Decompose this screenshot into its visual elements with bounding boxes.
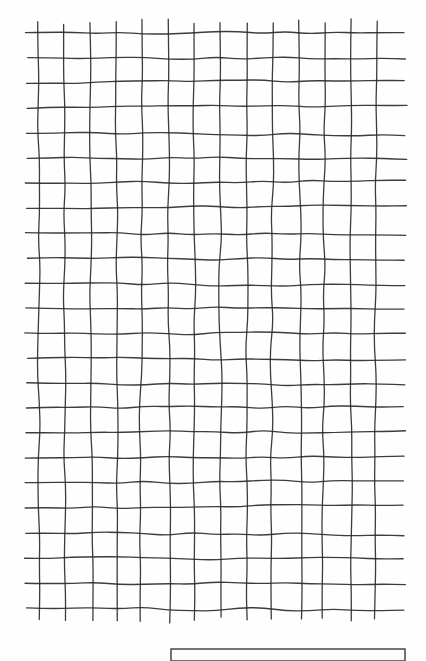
grid-line-vertical	[90, 23, 93, 621]
grid-line-horizontal	[26, 532, 404, 536]
grid-line-horizontal	[26, 132, 404, 135]
grid-line-horizontal	[28, 57, 406, 59]
grid-line-horizontal	[25, 582, 405, 584]
grid-line-horizontal	[27, 105, 407, 108]
hand-drawn-grid	[0, 0, 426, 661]
grid-line-horizontal	[25, 456, 404, 458]
grid-line-vertical	[38, 22, 40, 620]
grid-line-horizontal	[26, 233, 406, 236]
grid-line-vertical	[168, 19, 171, 623]
grid-line-horizontal	[28, 357, 406, 360]
grid-line-horizontal	[27, 80, 405, 83]
caption-box	[171, 649, 405, 661]
grid-line-horizontal	[25, 557, 404, 560]
grid-line-vertical	[246, 23, 248, 620]
grid-line-horizontal	[26, 31, 404, 34]
grid-line-vertical	[139, 20, 142, 622]
grid-line-vertical	[270, 23, 273, 619]
grid-line-horizontal	[27, 157, 406, 159]
grid-line-horizontal	[26, 431, 406, 433]
grid-line-horizontal	[25, 180, 405, 183]
grid-line-horizontal	[25, 283, 405, 286]
grid-line-vertical	[115, 22, 118, 621]
grid-line-vertical	[322, 23, 325, 618]
grid-line-vertical	[299, 20, 302, 619]
horizontal-grid-lines	[25, 31, 407, 610]
grid-line-vertical	[63, 24, 65, 620]
grid-line-horizontal	[27, 205, 407, 208]
grid-line-vertical	[219, 23, 222, 618]
caption-box-border	[171, 649, 405, 661]
grid-line-horizontal	[25, 480, 403, 483]
grid-line-horizontal	[26, 307, 404, 309]
grid-line-horizontal	[27, 608, 404, 611]
grid-line-horizontal	[27, 257, 404, 260]
grid-line-horizontal	[25, 505, 403, 509]
grid-line-vertical	[193, 23, 196, 620]
grid-line-vertical	[374, 21, 377, 619]
grid-line-vertical	[350, 19, 352, 621]
grid-line-horizontal	[27, 383, 405, 386]
figure-page	[0, 0, 426, 661]
grid-line-horizontal	[25, 332, 406, 335]
grid-line-horizontal	[26, 406, 403, 408]
